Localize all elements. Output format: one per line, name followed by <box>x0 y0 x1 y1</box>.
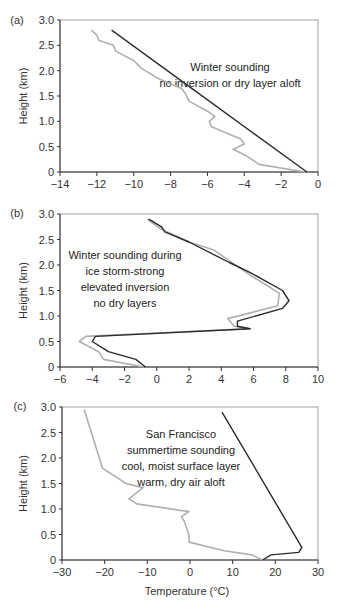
y-tick-label: 3.0 <box>39 208 54 220</box>
x-tick-label: −20 <box>95 566 114 578</box>
y-tick-label: 1.0 <box>39 115 54 127</box>
x-tick-label: −14 <box>51 178 70 190</box>
y-tick-label: 0 <box>48 361 54 373</box>
x-tick-label: −30 <box>53 566 72 578</box>
x-tick-label: 0 <box>187 566 193 578</box>
annotation-text: ice storm-strong <box>86 265 165 277</box>
y-axis-title: Height (km) <box>17 68 29 125</box>
temperature-line <box>92 219 289 367</box>
x-tick-label: −8 <box>164 178 177 190</box>
dewpoint-line <box>79 219 279 367</box>
annotation-text: Winter sounding during <box>68 249 181 261</box>
x-tick-label: −2 <box>275 178 288 190</box>
y-tick-label: 2.5 <box>39 39 54 51</box>
chart-panel-c: 00.51.01.52.02.53.0−30−20−100102030(c)He… <box>14 400 325 597</box>
y-tick-label: 1.5 <box>41 478 56 490</box>
y-tick-label: 0.5 <box>39 141 54 153</box>
plot-frame <box>60 20 318 172</box>
annotation-text: Winter sounding <box>190 61 270 73</box>
y-tick-label: 3.0 <box>39 14 54 26</box>
x-tick-label: −4 <box>86 373 99 385</box>
annotation-text: summertime sounding <box>127 444 235 456</box>
y-tick-label: 0.5 <box>41 529 56 541</box>
panel-label: (a) <box>10 14 23 26</box>
chart-panel-a: 00.51.01.52.02.53.0−14−12−10−8−6−4−20(a)… <box>10 14 321 190</box>
x-tick-label: 6 <box>250 373 256 385</box>
annotation-text: warm, dry air aloft <box>136 476 224 488</box>
y-axis-title: Height (km) <box>17 262 29 319</box>
y-tick-label: 1.5 <box>39 285 54 297</box>
y-tick-label: 2.0 <box>41 452 56 464</box>
x-tick-label: −10 <box>124 178 143 190</box>
x-tick-label: −2 <box>118 373 131 385</box>
y-tick-label: 1.0 <box>39 310 54 322</box>
y-axis-title: Height (km) <box>17 455 29 512</box>
y-tick-label: 1.5 <box>39 90 54 102</box>
y-tick-label: 0 <box>48 166 54 178</box>
x-tick-label: −10 <box>138 566 157 578</box>
annotation-text: elevated inversion <box>81 281 170 293</box>
x-tick-label: −6 <box>201 178 214 190</box>
x-tick-label: 0 <box>315 178 321 190</box>
x-tick-label: 30 <box>312 566 324 578</box>
annotation-text: cool, moist surface layer <box>122 460 241 472</box>
x-tick-label: −12 <box>88 178 107 190</box>
x-tick-label: −6 <box>54 373 67 385</box>
y-tick-label: 2.0 <box>39 65 54 77</box>
x-tick-label: 2 <box>186 373 192 385</box>
x-tick-label: 20 <box>269 566 281 578</box>
y-tick-label: 2.5 <box>39 234 54 246</box>
annotation-text: San Francisco <box>146 428 216 440</box>
x-axis-title: Temperature (°C) <box>145 585 229 597</box>
x-tick-label: −4 <box>238 178 251 190</box>
temperature-line <box>222 412 302 560</box>
dewpoint-line <box>91 30 305 172</box>
panel-label: (b) <box>10 207 23 219</box>
annotation-text: no dry layers <box>94 297 157 309</box>
x-tick-label: 8 <box>283 373 289 385</box>
y-tick-label: 3.0 <box>41 401 56 413</box>
y-tick-label: 1.0 <box>41 503 56 515</box>
x-tick-label: 4 <box>218 373 224 385</box>
x-tick-label: 10 <box>312 373 324 385</box>
y-tick-label: 2.0 <box>39 259 54 271</box>
sounding-figure: 00.51.01.52.02.53.0−14−12−10−8−6−4−20(a)… <box>0 0 342 610</box>
y-tick-label: 0 <box>50 554 56 566</box>
panel-label: (c) <box>14 400 27 412</box>
x-tick-label: 10 <box>227 566 239 578</box>
chart-panel-b: 00.51.01.52.02.53.0−6−4−20246810(b)Heigh… <box>10 207 324 385</box>
temperature-line <box>112 30 307 172</box>
y-tick-label: 2.5 <box>41 427 56 439</box>
y-tick-label: 0.5 <box>39 336 54 348</box>
x-tick-label: 0 <box>154 373 160 385</box>
